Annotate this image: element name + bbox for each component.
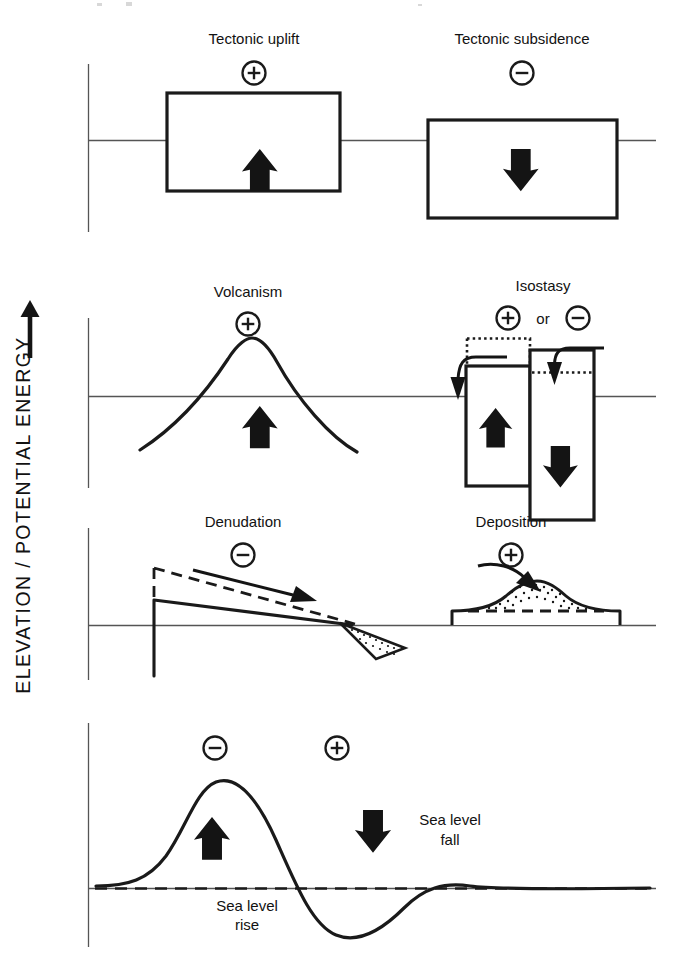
process-isostasy: Isostasy or <box>451 277 605 520</box>
sea-level-fall-motion-down-arrow-icon <box>355 810 391 853</box>
y-axis-label-group: ELEVATION / POTENTIAL ENERGY <box>12 300 40 694</box>
process-deposition: Deposition <box>452 513 620 625</box>
sea-level-rise-motion-up-arrow-icon <box>194 817 230 860</box>
scan-artifacts <box>97 2 422 6</box>
denudation-original-surface <box>154 568 355 624</box>
volcanism-motion-up-arrow-icon <box>242 406 278 448</box>
isostasy-sign-badge-negative <box>567 307 590 330</box>
denudation-transport-arrow-icon <box>193 570 317 602</box>
sea-level-rise-sign-badge <box>204 737 227 760</box>
isostasy-subsiding-block <box>530 350 594 520</box>
denudation-eroded-surface <box>154 600 352 676</box>
sea-level-rise-label-line2: rise <box>235 916 259 933</box>
panel-sea-level: Sea level rise Sea level fall <box>89 723 657 947</box>
process-denudation: Denudation <box>154 513 405 676</box>
panel-tectonics: Tectonic uplift Tectonic subsidence <box>89 30 657 232</box>
panel-volcanism-isostasy: Volcanism Isostasy or <box>89 277 657 520</box>
process-tectonic-uplift: Tectonic uplift <box>167 30 340 191</box>
tectonic-uplift-sign-badge <box>243 62 266 85</box>
sea-level-fall-label-line1: Sea level <box>419 811 481 828</box>
panel-denudation-deposition: Denudation <box>89 513 657 680</box>
isostasy-title: Isostasy <box>515 277 571 294</box>
deposition-sign-badge <box>500 544 523 567</box>
denudation-sediment-wedge <box>340 623 405 659</box>
isostasy-sign-conjunction: or <box>536 310 549 327</box>
denudation-sign-badge <box>232 544 255 567</box>
deposition-title: Deposition <box>476 513 547 530</box>
volcanism-sign-badge <box>237 313 260 336</box>
volcanism-edifice-profile <box>140 338 357 452</box>
diagram-canvas: ELEVATION / POTENTIAL ENERGY Tectonic up… <box>0 0 680 959</box>
isostasy-sign-badge-positive <box>497 307 520 330</box>
process-tectonic-subsidence: Tectonic subsidence <box>428 30 617 218</box>
tectonic-uplift-title: Tectonic uplift <box>209 30 301 47</box>
isostasy-removed-load-outline <box>467 339 530 367</box>
tectonic-subsidence-sign-badge <box>511 62 534 85</box>
process-volcanism: Volcanism <box>140 283 357 452</box>
geomorphic-process-diagram: ELEVATION / POTENTIAL ENERGY Tectonic up… <box>0 0 680 959</box>
deposition-supply-arrow-icon <box>478 564 541 592</box>
y-axis-title: ELEVATION / POTENTIAL ENERGY <box>12 336 34 693</box>
sea-level-fall-label-line2: fall <box>440 831 459 848</box>
sea-level-oscillation-curve <box>96 781 650 938</box>
denudation-title: Denudation <box>205 513 282 530</box>
tectonic-subsidence-title: Tectonic subsidence <box>454 30 589 47</box>
sea-level-fall-sign-badge <box>326 737 349 760</box>
sea-level-rise-label-line1: Sea level <box>216 897 278 914</box>
volcanism-title: Volcanism <box>214 283 282 300</box>
